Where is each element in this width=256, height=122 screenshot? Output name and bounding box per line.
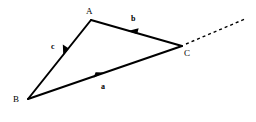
figure-canvas: A B C a b c bbox=[0, 0, 256, 122]
side-label-c: c bbox=[51, 43, 55, 51]
triangle-vector-svg bbox=[0, 0, 256, 122]
vertex-label-c: C bbox=[184, 49, 190, 58]
arrowhead-a-icon bbox=[94, 72, 105, 78]
vertex-label-b: B bbox=[13, 95, 19, 104]
arrowhead-b-icon bbox=[128, 28, 139, 34]
vertex-label-a: A bbox=[86, 7, 93, 16]
side-label-a: a bbox=[101, 83, 105, 91]
edge-side-a bbox=[28, 46, 182, 99]
extension-ray-icon bbox=[186, 19, 245, 44]
side-label-b: b bbox=[131, 15, 135, 23]
